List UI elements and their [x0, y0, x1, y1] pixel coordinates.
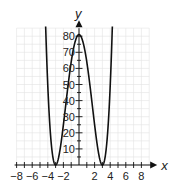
x-tick-label: −8	[10, 170, 23, 182]
x-axis-arrow-icon	[150, 162, 157, 169]
function-graph: −8−6−4−224681020304050607080xy	[0, 0, 171, 191]
axes	[15, 20, 158, 168]
x-tick-label: −6	[26, 170, 39, 182]
y-axis-arrow-icon	[76, 20, 83, 27]
y-tick-label: 40	[63, 95, 75, 107]
y-tick-label: 60	[63, 62, 75, 74]
x-tick-label: 8	[138, 170, 144, 182]
y-tick-label: 70	[63, 46, 75, 58]
y-tick-label: 80	[63, 30, 75, 42]
grid	[17, 28, 150, 165]
x-tick-label: 4	[107, 170, 113, 182]
labels: −8−6−4−224681020304050607080xy	[10, 6, 168, 182]
x-tick-label: 2	[92, 170, 98, 182]
y-tick-label: 50	[63, 79, 75, 91]
x-tick-label: −2	[57, 170, 70, 182]
x-tick-label: −4	[42, 170, 55, 182]
y-axis-label: y	[74, 6, 83, 21]
y-tick-label: 10	[63, 143, 75, 155]
x-axis-label: x	[160, 158, 168, 173]
x-tick-label: 6	[123, 170, 129, 182]
y-tick-label: 20	[63, 127, 75, 139]
y-tick-label: 30	[63, 111, 75, 123]
